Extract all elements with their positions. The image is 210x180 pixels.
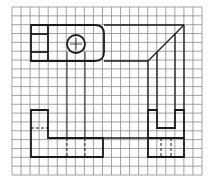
grid: [12, 7, 202, 175]
projection-diagram: [0, 0, 210, 180]
